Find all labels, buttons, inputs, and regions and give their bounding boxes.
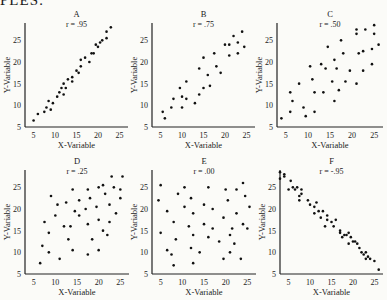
data-point: [58, 258, 61, 261]
data-point: [213, 52, 216, 55]
y-tick-label: 25: [268, 183, 276, 192]
data-point: [64, 87, 67, 90]
x-axis-label: X-Variable: [313, 287, 351, 297]
data-point: [179, 87, 182, 90]
x-tick-label: 15: [200, 131, 208, 140]
data-point: [181, 106, 184, 109]
data-point: [222, 258, 225, 261]
data-point: [298, 199, 301, 202]
data-point: [43, 111, 46, 114]
data-point: [209, 85, 212, 88]
data-point: [350, 236, 353, 239]
y-tick-label: 25: [140, 36, 148, 45]
data-point: [198, 251, 201, 254]
data-point: [339, 232, 342, 235]
correlation-label: r = .25: [66, 167, 87, 176]
data-point: [157, 199, 160, 202]
data-point: [324, 225, 327, 228]
data-point: [164, 117, 167, 120]
panel-title: D: [74, 156, 80, 166]
data-point: [108, 203, 111, 206]
data-point: [243, 46, 246, 49]
data-point: [287, 188, 290, 191]
data-point: [227, 199, 230, 202]
data-point: [45, 106, 48, 109]
x-tick-label: 15: [200, 278, 208, 287]
data-point: [311, 78, 314, 81]
data-point: [192, 234, 195, 237]
data-point: [172, 98, 175, 101]
data-point: [296, 186, 299, 189]
y-tick-label: 5: [17, 123, 21, 132]
data-point: [235, 212, 238, 215]
data-point: [242, 223, 245, 226]
data-point: [97, 46, 100, 49]
data-point: [362, 253, 365, 256]
data-point: [99, 41, 102, 44]
data-point: [115, 212, 118, 215]
data-point: [54, 214, 57, 217]
data-point: [317, 210, 320, 213]
x-tick-label: 25: [116, 278, 124, 287]
data-point: [119, 188, 122, 191]
data-point: [347, 232, 350, 235]
scatter-plot-a: 510152025510152025X-VariableY-VariableAr…: [2, 9, 128, 150]
data-point: [373, 33, 376, 36]
panel-title: A: [73, 9, 80, 19]
data-point: [71, 249, 74, 252]
data-point: [298, 195, 301, 198]
data-point: [50, 195, 53, 198]
x-tick-label: 20: [94, 131, 102, 140]
data-point: [101, 39, 104, 42]
data-point: [104, 193, 107, 196]
data-point: [77, 72, 80, 75]
x-axis-label: X-Variable: [311, 140, 349, 150]
x-tick-label: 20: [95, 278, 103, 287]
data-point: [342, 52, 345, 55]
data-point: [41, 245, 44, 248]
data-point: [294, 188, 297, 191]
panel-title: C: [327, 9, 333, 19]
scatter-plot-e: 510152025510152025X-VariableY-VariableEr…: [129, 156, 256, 297]
data-point: [367, 255, 370, 258]
y-axis-label: Y-Variable: [129, 57, 139, 94]
data-point: [175, 238, 178, 241]
y-tick-label: 20: [265, 58, 273, 67]
data-point: [58, 91, 61, 94]
data-point: [74, 210, 77, 213]
y-tick-label: 20: [13, 58, 21, 67]
x-axis-label: X-Variable: [58, 287, 96, 297]
scatter-plot-f: 510152025510152025X-VariableY-VariableFr…: [257, 156, 383, 297]
y-tick-label: 15: [265, 80, 273, 89]
data-point: [232, 35, 235, 38]
data-point: [177, 193, 180, 196]
data-point: [108, 221, 111, 224]
y-tick-label: 25: [265, 36, 273, 45]
data-point: [95, 43, 98, 46]
data-point: [338, 89, 341, 92]
data-point: [166, 210, 169, 213]
data-point: [315, 201, 318, 204]
panel-title: E: [201, 156, 206, 166]
data-point: [170, 253, 173, 256]
data-point: [87, 223, 90, 226]
y-axis-label: Y-Variable: [2, 57, 12, 94]
data-point: [358, 247, 361, 250]
data-point: [280, 117, 283, 120]
data-point: [322, 91, 325, 94]
data-point: [322, 210, 325, 213]
data-point: [307, 199, 310, 202]
data-point: [334, 219, 337, 222]
data-point: [159, 184, 162, 187]
data-point: [355, 33, 358, 36]
data-point: [333, 59, 336, 62]
x-tick-label: 15: [73, 131, 81, 140]
data-point: [331, 80, 334, 83]
panel-title: F: [329, 156, 334, 166]
data-point: [92, 52, 95, 55]
y-tick-label: 15: [13, 227, 21, 236]
data-point: [105, 30, 108, 33]
data-point: [218, 240, 221, 243]
y-tick-label: 10: [265, 101, 273, 110]
data-point: [360, 251, 363, 254]
